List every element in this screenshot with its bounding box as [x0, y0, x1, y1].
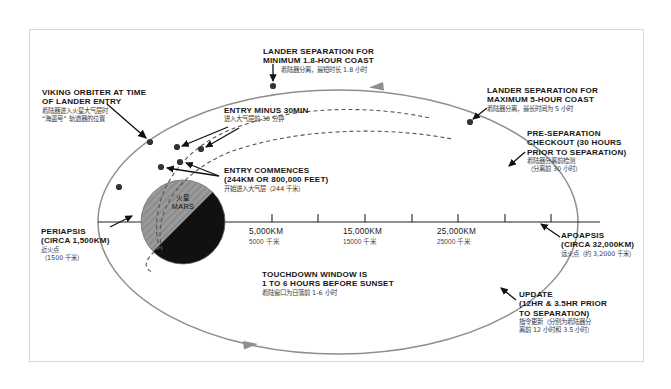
leader-apoapsis [541, 224, 560, 237]
annotation-lander-sep-max-cn-0: 着陆器分离，最长时间为 5 小时 [487, 105, 598, 113]
scale-tick-15000-en: 15,000KM [343, 227, 382, 236]
annotation-viking-orbiter-cn-0: 着陆器进入火星大气层时 [42, 107, 146, 115]
annotation-apoapsis-en-0: APOAPSIS [561, 231, 635, 240]
annotation-lander-sep-min-cn-0: 着陆器分离，最短时长 1.8 小时 [281, 66, 374, 74]
scale-tick-15000: 15,000KM 15000 千米 [343, 227, 382, 246]
annotation-touchdown-en-0: TOUCHDOWN WINDOW IS [262, 270, 394, 279]
annotation-periapsis-cn-1: （1500 千米） [41, 254, 110, 262]
annotation-periapsis-cn-0: 近火点 [41, 246, 110, 254]
leader-entry-minus-30-a [182, 127, 228, 146]
annotation-lander-sep-min-en-0: LANDER SEPARATION FOR [263, 47, 374, 56]
annotation-entry-commences-en-1: (244KM OR 800,000 FEET) [224, 175, 328, 184]
annotation-periapsis-en-1: (CIRCA 1,500KM) [41, 236, 110, 245]
mars-label-cn: 火星 [155, 192, 211, 202]
annotation-update-cn-1: 离前 12 小时和 3.5 小时） [519, 326, 607, 334]
annotation-apoapsis: APOAPSIS (CIRCA 32,000KM) 远火点（约 3,2000 千… [561, 231, 635, 258]
annotation-lander-separation-min: LANDER SEPARATION FOR MINIMUM 1.8-HOUR C… [263, 47, 374, 74]
annotation-entry-minus-30-cn-0: 进入大气层前 30 分钟 [224, 115, 308, 123]
scale-tick-15000-cn: 15000 千米 [343, 236, 382, 246]
mars-label: 火星 MARS [155, 192, 211, 211]
scale-tick-5000-cn: 5000 千米 [249, 236, 283, 246]
annotation-update-en-2: TO SEPARATION) [519, 309, 607, 318]
orbit-direction-arrow-top [369, 82, 384, 91]
annotation-entry-commences: ENTRY COMMENCES (244KM OR 800,000 FEET) … [224, 166, 328, 193]
leader-update [501, 288, 516, 300]
annotation-entry-minus-30-en-0: ENTRY MINUS 30MIN [224, 106, 308, 115]
marker-entry-commences-b [177, 159, 183, 165]
leader-entry-commences-a [167, 168, 219, 176]
marker-entry-minus-30-b [198, 146, 204, 152]
mars-label-en: MARS [155, 202, 211, 211]
leader-entry-minus-30-b [206, 128, 239, 147]
annotation-periapsis: PERIAPSIS (CIRCA 1,500KM) 近火点 （1500 千米） [41, 227, 110, 262]
annotation-lander-separation-max: LANDER SEPARATION FOR MAXIMUM 5-HOUR COA… [487, 86, 598, 113]
diagram-canvas: VIKING ORBITER AT TIME OF LANDER ENTRY 着… [0, 0, 671, 389]
scale-tick-25000-cn: 25000 千米 [437, 236, 476, 246]
annotation-lander-sep-max-en-0: LANDER SEPARATION FOR [487, 86, 598, 95]
annotation-touchdown-en-1: 1 TO 6 HOURS BEFORE SUNSET [262, 279, 394, 288]
annotation-entry-commences-cn-0: 开始进入大气层（244 千米） [224, 185, 328, 193]
annotation-viking-orbiter: VIKING ORBITER AT TIME OF LANDER ENTRY 着… [42, 88, 146, 123]
annotation-pre-separation-checkout: PRE-SEPARATION CHECKOUT (30 HOURS PRIOR … [527, 129, 626, 174]
marker-entry-commences-a [158, 164, 164, 170]
annotation-lander-sep-min-en-1: MINIMUM 1.8-HOUR COAST [263, 56, 374, 65]
scale-tick-5000-en: 5,000KM [249, 227, 283, 236]
leader-pre-separation [509, 152, 525, 166]
annotation-pre-separation-cn-1: （分离前 30 小时） [527, 165, 626, 173]
annotation-viking-orbiter-en-1: OF LANDER ENTRY [42, 97, 146, 106]
marker-periapsis-orbit [116, 184, 122, 190]
annotation-touchdown-window: TOUCHDOWN WINDOW IS 1 TO 6 HOURS BEFORE … [262, 270, 394, 297]
annotation-update-en-0: UPDATE [519, 290, 607, 299]
annotation-lander-sep-max-en-1: MAXIMUM 5-HOUR COAST [487, 95, 598, 104]
marker-entry-minus-30-a [174, 144, 180, 150]
scale-tick-5000: 5,000KM 5000 千米 [249, 227, 283, 246]
annotation-update-en-1: (12HR & 3.5HR PRIOR [519, 299, 607, 308]
annotation-apoapsis-cn-0: 远火点（约 3,2000 千米） [561, 250, 635, 258]
scale-tick-25000: 25,000KM 25000 千米 [437, 227, 476, 246]
annotation-touchdown-cn-0: 着陆窗口为日落前 1-6 小时 [262, 289, 394, 297]
annotation-pre-separation-en-1: CHECKOUT (30 HOURS [527, 138, 626, 147]
annotation-entry-commences-en-0: ENTRY COMMENCES [224, 166, 328, 175]
marker-lander-sep-max [467, 119, 473, 125]
marker-viking-orbiter [147, 139, 153, 145]
annotation-apoapsis-en-1: (CIRCA 32,000KM) [561, 240, 635, 249]
annotation-update: UPDATE (12HR & 3.5HR PRIOR TO SEPARATION… [519, 290, 607, 335]
scale-axis-ticks [272, 214, 551, 222]
marker-lander-sep-min [270, 83, 276, 89]
annotation-pre-separation-en-0: PRE-SEPARATION [527, 129, 626, 138]
annotation-periapsis-en-0: PERIAPSIS [41, 227, 110, 236]
annotation-viking-orbiter-cn-1: “海盗号” 轨道器的位置 [42, 115, 146, 123]
scale-tick-25000-en: 25,000KM [437, 227, 476, 236]
annotation-viking-orbiter-en-0: VIKING ORBITER AT TIME [42, 88, 146, 97]
annotation-pre-separation-en-2: PRIOR TO SEPARATION) [527, 148, 626, 157]
annotation-entry-minus-30: ENTRY MINUS 30MIN 进入大气层前 30 分钟 [224, 106, 308, 124]
